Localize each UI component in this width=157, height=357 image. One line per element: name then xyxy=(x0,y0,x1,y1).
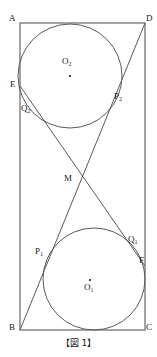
point-label-f: F xyxy=(139,256,144,265)
point-label-q1-sub: 1 xyxy=(135,239,138,245)
geometry-diagram xyxy=(0,0,157,357)
vertex-label-c: C xyxy=(146,323,152,332)
circle-center-label-o2: O₂ xyxy=(62,57,72,66)
center-dot-o2 xyxy=(69,75,71,77)
point-label-q2-sub: 2 xyxy=(28,108,31,114)
circle-center-label-o1: O₁ xyxy=(84,283,94,292)
point-label-p1-sub: 1 xyxy=(40,251,43,257)
point-label-e: E xyxy=(10,80,16,89)
vertex-label-a: A xyxy=(9,14,16,23)
point-label-q2-text: Q xyxy=(21,103,28,113)
center-dot-o1 xyxy=(89,279,91,281)
vertex-label-d: D xyxy=(146,14,153,23)
point-label-p2-sub: 2 xyxy=(119,96,122,102)
point-label-q1-text: Q xyxy=(128,234,135,244)
point-label-m: M xyxy=(64,174,72,183)
point-label-p2: P2 xyxy=(114,92,122,101)
point-label-q1: Q1 xyxy=(128,235,138,244)
vertex-label-b: B xyxy=(9,323,15,332)
line-ef xyxy=(20,86,145,266)
point-label-p1: P1 xyxy=(35,247,43,256)
figure-caption: 【図 1】 xyxy=(0,338,157,349)
figure-container: A D B C O₂ O₁ E Q2 P2 M P1 Q1 F 【図 1】 xyxy=(0,0,157,357)
point-label-q2: Q2 xyxy=(21,104,31,113)
